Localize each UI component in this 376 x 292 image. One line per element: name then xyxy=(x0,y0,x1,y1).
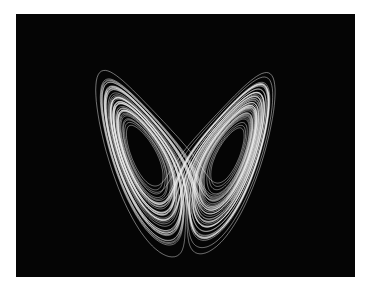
lorenz-attractor-plot xyxy=(16,14,355,277)
attractor-panel xyxy=(16,14,355,277)
